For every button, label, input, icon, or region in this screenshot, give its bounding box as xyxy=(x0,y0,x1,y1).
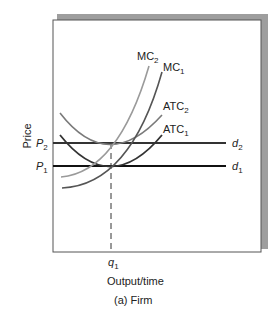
p2-label: P2 xyxy=(36,137,48,152)
chart-caption: (a) Firm xyxy=(114,294,153,306)
x-axis-label: Output/time xyxy=(107,275,164,287)
y-axis-label: Price xyxy=(21,123,33,148)
q1-label: q1 xyxy=(108,256,119,271)
firm-cost-chart: Price P2 P1 d2 d1 MC2 MC1 ATC2 ATC1 q1 O… xyxy=(0,0,280,324)
p1-label: P1 xyxy=(36,160,48,175)
